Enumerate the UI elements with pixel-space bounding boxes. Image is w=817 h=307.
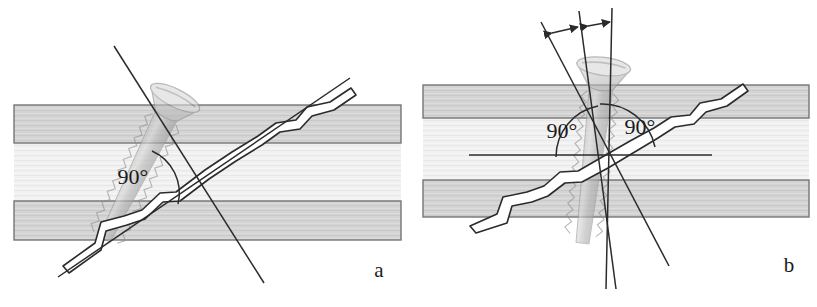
panel-a-top-cortex [14, 105, 401, 143]
panel-a: 90° a [14, 46, 401, 283]
panel-a-letter: a [374, 258, 384, 282]
panel-b-bottom-cortex [423, 180, 809, 217]
panel-a-angle-label: 90° [118, 164, 149, 189]
panel-a-bottom-cortex [14, 201, 401, 240]
panel-b-letter: b [784, 253, 795, 277]
panel-b-angle-arrow-right [588, 22, 610, 26]
panel-b-angle-arrow-left [552, 27, 578, 33]
panel-b-angle-label-left: 90° [547, 118, 578, 143]
orthopedic-diagram-svg: 90° a [0, 0, 817, 307]
panel-b-angle-label-right: 90° [625, 114, 656, 139]
panel-b: 90° 90° b [423, 8, 809, 289]
figure-root: 90° a [0, 0, 817, 307]
